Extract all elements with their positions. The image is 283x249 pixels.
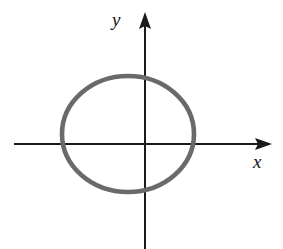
y-axis-label: y: [112, 10, 120, 29]
circle-curve: [62, 76, 194, 192]
figure-canvas: [0, 0, 283, 249]
x-axis-label: x: [253, 152, 261, 171]
figure-root: y x: [0, 0, 283, 249]
